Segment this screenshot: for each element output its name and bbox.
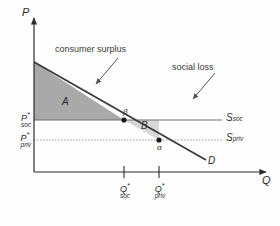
- point-beta-marker: [121, 117, 126, 122]
- quantity-priv-label: Q* priv: [147, 182, 173, 200]
- social-loss-arrow: [193, 73, 215, 99]
- quantity-soc-label: Q* soc: [112, 182, 138, 200]
- point-alpha-label: α: [157, 143, 162, 152]
- demand-label: D: [208, 155, 215, 166]
- supply-social-label: Ssoc: [226, 112, 243, 123]
- x-axis-label: Q: [262, 174, 271, 186]
- point-alpha-marker: [156, 137, 161, 142]
- diagram-canvas: P Q Ssoc Spriv D A B β α consumer surplu…: [0, 0, 280, 226]
- price-priv-label: P* priv: [4, 131, 31, 149]
- y-axis-label: P: [22, 6, 29, 18]
- consumer-surplus-arrow: [96, 58, 118, 84]
- region-b-label: B: [141, 120, 148, 131]
- price-soc-label: P* soc: [4, 111, 31, 129]
- consumer-surplus-annotation: consumer surplus: [55, 44, 126, 54]
- point-beta-label: β: [123, 107, 128, 116]
- region-a-label: A: [62, 96, 69, 107]
- social-loss-annotation: social loss: [172, 62, 214, 72]
- supply-private-label: Spriv: [226, 132, 243, 143]
